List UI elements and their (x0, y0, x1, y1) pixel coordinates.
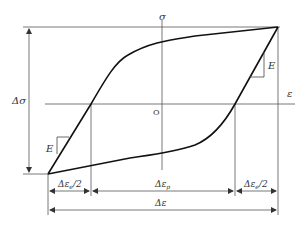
right-modulus-label: E (267, 60, 276, 71)
elastic-half-left-label: Δεe/2 (57, 179, 82, 190)
stress-range-label: Δσ (11, 95, 27, 106)
plastic-strain-label: Δεp (154, 179, 170, 191)
hysteresis-upper-branch (48, 27, 278, 174)
strain-axis-label: ε (287, 88, 292, 99)
hysteresis-lower-branch (48, 27, 278, 174)
total-strain-label: Δε (154, 198, 166, 208)
elastic-half-right-label: Δεe/2 (243, 179, 268, 190)
stress-axis-label: σ (159, 11, 167, 22)
hysteresis-diagram: Δσ ε σ O E E Δεe/2 Δεp Δεe/2 Δε (0, 0, 300, 225)
left-modulus-label: E (45, 143, 54, 154)
left-modulus-triangle (57, 137, 69, 154)
origin-label: O (153, 108, 160, 117)
